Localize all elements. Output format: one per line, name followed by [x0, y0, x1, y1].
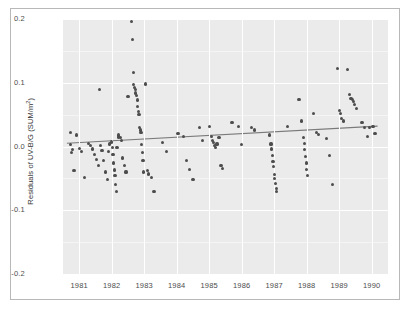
data-point	[144, 82, 147, 85]
data-point	[150, 176, 153, 179]
scatter-plot-figure: Residuals of UV-B/G (SUM/m2) 0.20.10.0-0…	[0, 0, 414, 314]
data-point	[124, 170, 127, 173]
grid-line-vertical	[177, 19, 178, 274]
grid-line-vertical	[372, 19, 373, 274]
data-point	[147, 172, 150, 175]
y-axis-label-prefix: Residuals of UV-B/G (SUM/m	[26, 104, 35, 205]
data-point	[142, 170, 145, 173]
data-point	[269, 142, 272, 145]
data-point	[95, 158, 98, 161]
data-point	[268, 133, 271, 136]
grid-line-vertical	[339, 19, 340, 274]
data-point	[113, 174, 116, 177]
grid-line-vertical	[144, 19, 145, 274]
data-point	[303, 142, 306, 145]
y-tick-label: 0.0	[0, 142, 25, 151]
grid-line-vertical	[242, 19, 243, 274]
data-point	[273, 173, 276, 176]
y-tick-label: 0.2	[0, 14, 25, 23]
data-point	[271, 154, 274, 157]
data-point	[100, 149, 103, 152]
data-point	[72, 169, 75, 172]
grid-line-vertical	[209, 19, 210, 274]
data-point	[104, 170, 107, 173]
data-point	[210, 135, 213, 138]
data-point	[69, 131, 72, 134]
grid-line-vertical	[307, 19, 308, 274]
data-point	[113, 168, 116, 171]
data-point	[312, 112, 315, 115]
data-point	[305, 161, 308, 164]
data-point	[139, 131, 142, 134]
data-point	[115, 190, 118, 193]
data-point	[270, 147, 273, 150]
data-point	[97, 164, 100, 167]
y-axis-label-suffix: )	[26, 98, 35, 101]
plot-panel	[63, 19, 388, 274]
data-point	[102, 159, 105, 162]
y-tick-label: -0.2	[0, 269, 25, 278]
data-point	[132, 71, 135, 74]
data-point	[230, 121, 233, 124]
data-point	[75, 133, 78, 136]
data-point	[111, 146, 114, 149]
data-point	[215, 142, 218, 145]
data-point	[91, 147, 94, 150]
data-point	[371, 125, 374, 128]
data-point	[134, 88, 137, 91]
data-point	[136, 98, 139, 101]
data-point	[83, 176, 86, 179]
data-point	[191, 178, 194, 181]
data-point	[115, 146, 118, 149]
y-axis-label: Residuals of UV-B/G (SUM/m2)	[25, 61, 36, 241]
data-point	[317, 133, 320, 136]
data-point	[198, 126, 201, 129]
y-tick-label: -0.1	[0, 205, 25, 214]
data-point	[141, 159, 144, 162]
data-point	[300, 119, 303, 122]
data-point	[137, 113, 140, 116]
data-point	[123, 164, 126, 167]
data-point	[111, 153, 114, 156]
data-point	[366, 135, 369, 138]
data-point	[152, 190, 155, 193]
y-axis-label-exponent: 2	[25, 100, 31, 103]
data-point	[339, 112, 342, 115]
data-point	[217, 136, 220, 139]
data-point	[112, 161, 115, 164]
y-tick-label: 0.1	[0, 78, 25, 87]
x-tick-label: 1990	[352, 281, 392, 290]
data-point	[342, 119, 345, 122]
data-point	[373, 132, 376, 135]
data-point	[348, 93, 351, 96]
data-point	[106, 178, 109, 181]
data-point	[253, 128, 256, 131]
data-point	[360, 121, 363, 124]
grid-line-vertical	[274, 19, 275, 274]
data-point	[297, 98, 300, 101]
data-point	[355, 107, 358, 110]
data-point	[182, 135, 185, 138]
